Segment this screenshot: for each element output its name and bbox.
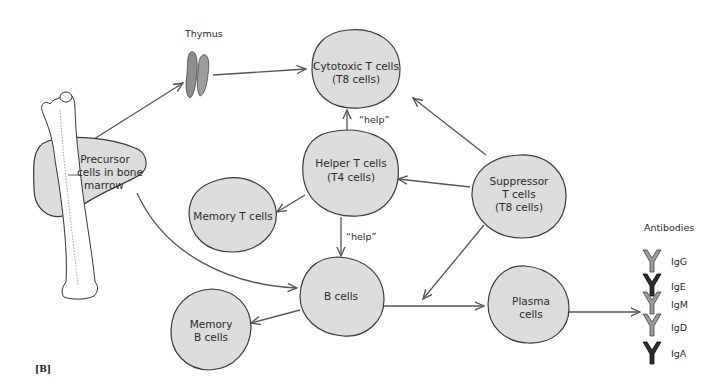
antibodies-title: Antibodies bbox=[644, 222, 694, 233]
antibody-label: IgM bbox=[671, 299, 688, 310]
suppressor-label-line3: (T8 cells) bbox=[495, 201, 543, 213]
precursor-label-line3: marrow bbox=[84, 179, 124, 191]
cytotoxic-label-line1: Cytotoxic T cells bbox=[313, 60, 399, 72]
antibody-y-icon bbox=[643, 314, 661, 336]
antibody-label: IgD bbox=[671, 322, 687, 333]
memory-t-label: Memory T cells bbox=[193, 210, 272, 222]
antibody-label: IgE bbox=[671, 281, 686, 292]
antibody-y-icon bbox=[643, 250, 661, 272]
help-upper-label: “help” bbox=[359, 114, 389, 125]
memory-b-label-line2: B cells bbox=[194, 331, 228, 343]
suppressor-label-line2: T cells bbox=[501, 188, 535, 200]
antibody-label: IgG bbox=[671, 256, 687, 267]
antibody-igg: IgG bbox=[643, 250, 687, 272]
helper-label-line2: (T4 cells) bbox=[327, 171, 375, 183]
b-cells-label: B cells bbox=[324, 290, 358, 302]
antibody-y-icon bbox=[643, 342, 661, 364]
suppressor-label-line1: Suppressor bbox=[490, 175, 550, 187]
help-lower-label: “help” bbox=[346, 231, 376, 242]
cytotoxic-label-line2: (T8 cells) bbox=[332, 73, 380, 85]
plasma-label-line2: cells bbox=[519, 308, 543, 320]
antibody-label: IgA bbox=[671, 348, 687, 359]
plasma-label-line1: Plasma bbox=[512, 295, 550, 307]
thymus-label: Thymus bbox=[184, 28, 223, 39]
immune-cell-diagram: Precursor cells in bone marrow Thymus Cy… bbox=[0, 0, 707, 384]
edge-suppressor-to-helper bbox=[398, 179, 470, 187]
antibody-ige: IgE bbox=[643, 274, 686, 296]
edge-thymus-to-cytotoxic bbox=[213, 69, 306, 75]
thymus-organ-icon bbox=[186, 52, 209, 98]
edge-precursor-to-thymus bbox=[94, 83, 183, 139]
helper-label-line1: Helper T cells bbox=[315, 157, 386, 169]
edge-helper-to-memory-t bbox=[277, 195, 305, 212]
precursor-label-line1: Precursor bbox=[80, 153, 130, 165]
edge-suppressor-to-cytotoxic bbox=[413, 98, 486, 155]
antibody-igd: IgD bbox=[643, 314, 687, 336]
memory-b-label-line1: Memory bbox=[190, 318, 233, 330]
edge-suppressor-to-b-plasma bbox=[423, 225, 484, 299]
precursor-label-line2: cells in bone bbox=[77, 166, 143, 178]
figure-label: [B] bbox=[35, 364, 51, 374]
edge-b-cells-to-memory-b bbox=[251, 310, 300, 323]
antibody-iga: IgA bbox=[643, 342, 687, 364]
